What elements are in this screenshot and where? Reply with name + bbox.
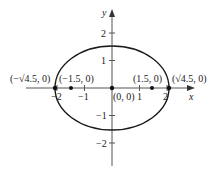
point-label-1-5: (1.5, 0) bbox=[133, 73, 162, 85]
ellipse-diagram: x y −2 −1 1 2 2 1 −1 −2 (−√4 bbox=[0, 0, 212, 173]
point-neg-sqrt45 bbox=[53, 86, 57, 90]
point-label-neg-sqrt45: (−√4.5, 0) bbox=[10, 73, 50, 85]
x-tick-label-neg1: −1 bbox=[78, 91, 89, 102]
y-tick-label-neg2: −2 bbox=[96, 138, 107, 149]
y-tick-label-1: 1 bbox=[101, 55, 106, 66]
point-label-neg-1-5: (−1.5, 0) bbox=[59, 73, 94, 85]
y-axis-label: y bbox=[101, 7, 107, 18]
y-tick-label-2: 2 bbox=[101, 28, 106, 39]
point-origin bbox=[110, 86, 114, 90]
x-tick-label-1: 1 bbox=[137, 91, 142, 102]
point-label-sqrt45: (√4.5, 0) bbox=[172, 73, 207, 85]
point-sqrt45 bbox=[167, 86, 171, 90]
y-tick-label-neg1: −1 bbox=[96, 110, 107, 121]
x-axis-label: x bbox=[188, 91, 194, 102]
points bbox=[53, 86, 171, 90]
point-neg-1-5 bbox=[69, 86, 73, 90]
y-axis-arrow-icon bbox=[109, 9, 115, 17]
point-label-origin: (0, 0) bbox=[113, 91, 135, 103]
point-1-5 bbox=[150, 86, 154, 90]
